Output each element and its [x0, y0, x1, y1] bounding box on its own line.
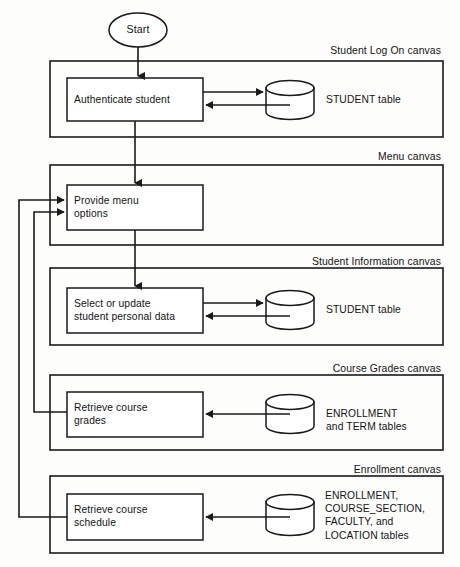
canvas-label-student-log-on: Student Log On canvas: [243, 44, 441, 57]
flowchart-vector-layer: [0, 0, 460, 567]
process-label-select-or-update: Select or update student personal data: [74, 297, 202, 323]
datastore-label-student-table-1: STUDENT table: [326, 93, 438, 106]
datastore-label-enrollment-term: ENROLLMENT and TERM tables: [326, 407, 442, 433]
feedback-schedule-to-menu: [19, 200, 67, 517]
datastore-cylinder-student-2: [266, 291, 314, 330]
canvas-label-enrollment: Enrollment canvas: [253, 463, 441, 476]
canvas-label-menu: Menu canvas: [243, 150, 441, 163]
datastore-cylinder-student-1: [266, 81, 314, 120]
datastore-cylinder-enrollment-multi: [266, 495, 314, 536]
process-label-retrieve-course-schedule: Retrieve course schedule: [74, 503, 200, 529]
canvas-label-course-grades: Course Grades canvas: [233, 362, 441, 375]
flowchart-diagram: Start Student Log On canvas Authenticate…: [0, 0, 460, 567]
process-label-authenticate-student: Authenticate student: [74, 93, 200, 106]
process-label-provide-menu-options: Provide menu options: [74, 194, 200, 220]
start-label: Start: [108, 23, 168, 36]
datastore-label-enrollment-multi: ENROLLMENT, COURSE_SECTION, FACULTY, and…: [325, 489, 450, 542]
datastore-label-student-table-2: STUDENT table: [326, 303, 438, 316]
process-label-retrieve-course-grades: Retrieve course grades: [74, 401, 200, 427]
canvas-label-student-information: Student Information canvas: [213, 255, 441, 268]
